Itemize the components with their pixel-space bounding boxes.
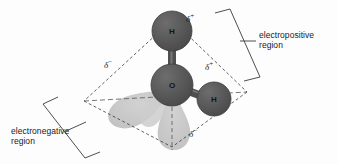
charge-label-delta-minus-bottom: δ− [189,129,197,139]
atom-label-h-right: H [211,95,217,104]
electropositive-bracket [215,9,260,81]
charge-label-delta-minus-left: δ− [104,60,112,70]
annotation-electropositive: electropositive region [259,30,314,50]
charge-label-delta-plus-right: δ+ [205,62,213,72]
annotation-electropositive-line2: region [259,40,314,50]
atom-h-right[interactable]: H [197,82,231,116]
atom-label-h-top: H [169,27,175,36]
annotation-electronegative-line2: region [11,136,69,146]
annotation-electropositive-line1: electropositive [259,30,314,40]
water-polarity-figure: H O H δ+ δ+ δ− δ− [0,0,338,164]
atom-label-o-center: O [169,81,175,90]
charge-label-delta-plus-top: δ+ [186,14,194,24]
annotation-electronegative: electronegative region [11,126,69,146]
atom-o-center[interactable]: O [151,64,193,106]
annotation-electronegative-line1: electronegative [11,126,69,136]
